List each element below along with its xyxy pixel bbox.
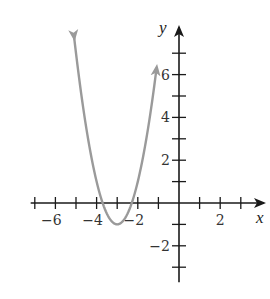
parabola-graph: −6−4−22 642−2 x y	[0, 0, 270, 299]
x-tick-label: −6	[41, 212, 62, 228]
x-tick-label: 2	[216, 212, 225, 228]
axes: −6−4−22 642−2 x y	[31, 18, 264, 282]
x-axis-label: x	[255, 208, 264, 227]
x-tick-labels: −6−4−22	[41, 212, 225, 228]
parabola-curve	[74, 36, 156, 225]
y-tick-label: 6	[161, 67, 170, 83]
y-tick-label: −2	[149, 238, 170, 254]
x-tick-label: −4	[82, 212, 103, 228]
y-tick-label: 2	[161, 152, 170, 168]
y-axis-label: y	[157, 18, 167, 37]
y-tick-label: 4	[161, 109, 170, 125]
